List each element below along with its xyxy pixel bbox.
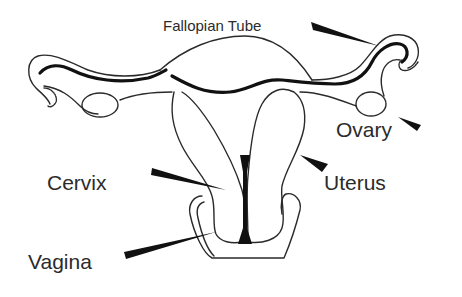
uterus-label: Uterus bbox=[324, 172, 386, 193]
uterus-right-body bbox=[247, 89, 305, 242]
left-ovary bbox=[82, 93, 118, 117]
left-ligament-outline bbox=[120, 92, 172, 100]
right-ovary bbox=[356, 92, 386, 116]
vagina-inner-wall bbox=[197, 202, 214, 256]
cervix-pointer bbox=[151, 168, 226, 190]
uterus-pointer bbox=[300, 155, 328, 172]
vagina-label: Vagina bbox=[28, 251, 92, 272]
ovary-pointer bbox=[398, 117, 421, 131]
uterus-left-body bbox=[172, 92, 245, 243]
right-ligament-outline bbox=[300, 92, 356, 106]
vagina-pointer bbox=[124, 232, 216, 259]
fallopian-tube-label: Fallopian Tube bbox=[163, 18, 261, 33]
ovary-label: Ovary bbox=[336, 119, 392, 140]
fallopian-tube-pointer bbox=[311, 22, 379, 46]
uterus-fundus-outline bbox=[160, 36, 312, 80]
cervix-label: Cervix bbox=[47, 172, 107, 193]
cervical-canal bbox=[238, 155, 252, 244]
right-tube-lower-outline bbox=[381, 60, 400, 96]
